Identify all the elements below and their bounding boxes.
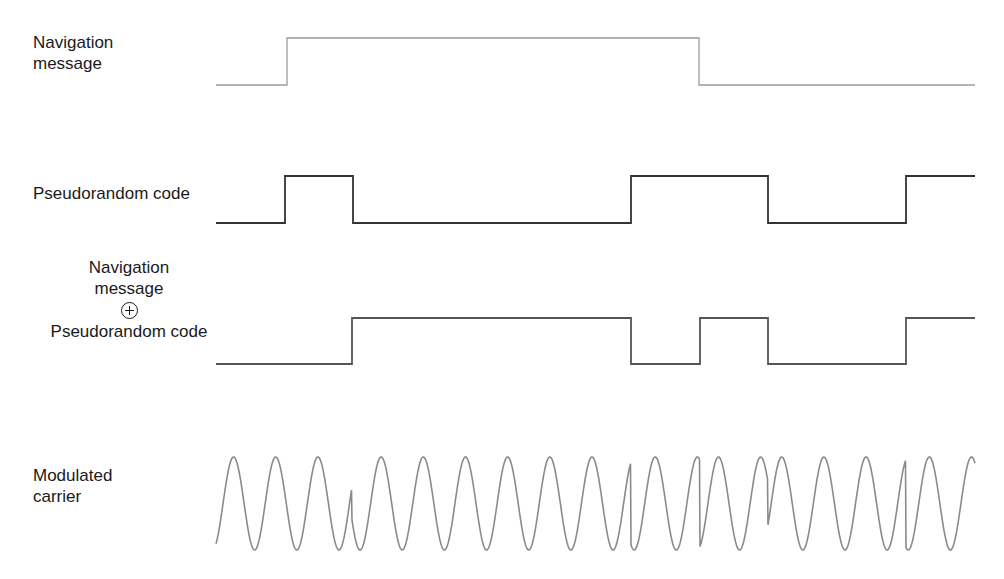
navigation-message-waveform — [216, 38, 975, 85]
modulated-carrier-waveform — [216, 457, 975, 550]
xor-result-waveform — [216, 318, 975, 364]
signal-diagram — [0, 0, 1004, 579]
pseudorandom-code-waveform — [216, 176, 975, 223]
